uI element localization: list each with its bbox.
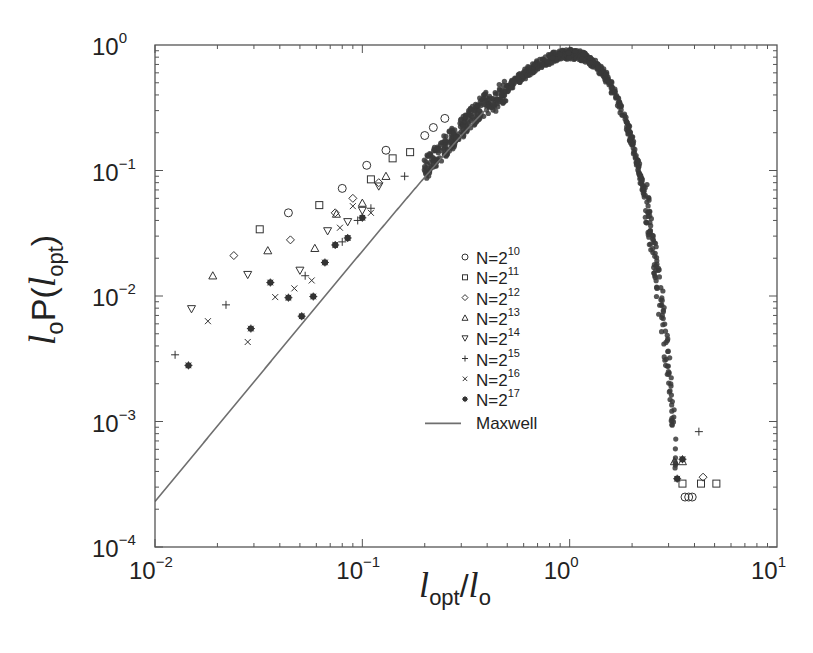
legend-triangle-up-icon [462,315,468,320]
series-triangle-down [188,183,383,313]
dense-data-band [422,47,679,471]
legend-label: Maxwell [476,414,537,433]
loglog-chart: 10−210−110010110010−110−210−310−4 N=210N… [0,0,813,653]
y-tick-label: 10−2 [92,280,136,311]
svg-text:loP(lopt): loP(lopt) [21,235,68,345]
legend-item: N=217 [462,387,520,410]
x-tick-label: 10−1 [336,553,380,584]
series-triangle-up [209,172,687,464]
legend-item: Maxwell [425,414,537,433]
x-axis-label: lopt/lo [419,565,491,610]
axis-tick-labels: 10−210−110010110010−110−210−310−4 [92,29,786,584]
legend-asterisk-icon [462,396,468,402]
legend: N=210N=211N=212N=213N=214N=215N=216N=217… [425,245,537,433]
y-tick-label: 10−3 [92,406,136,437]
y-axis-label: loP(lopt) [21,235,68,345]
legend-plus-icon [462,356,468,362]
svg-text:lopt/lo: lopt/lo [419,565,491,610]
series-diamond [230,179,707,482]
y-tick-label: 10−1 [92,155,136,186]
x-tick-label: 10−2 [129,553,173,584]
y-tick-label: 100 [92,29,127,60]
x-tick-label: 101 [751,553,786,584]
legend-circle-icon [462,254,468,260]
legend-diamond-icon [462,295,468,301]
legend-square-icon [463,275,468,280]
legend-triangle-down-icon [462,336,468,341]
series-asterisk [184,214,686,483]
x-tick-label: 100 [544,553,579,584]
series-plus [171,172,703,435]
legend-label: N=217 [476,387,520,410]
legend-cross-icon [463,377,468,382]
